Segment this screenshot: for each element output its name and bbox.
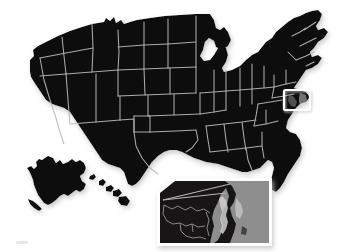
corner-artifact — [16, 241, 28, 244]
map-stage — [0, 0, 350, 252]
chesapeake-bay-detail-image — [158, 178, 272, 246]
chesapeake-bay-detail[interactable] — [0, 0, 350, 252]
us-map-figure: Map of the United States with Chesapeake… — [0, 0, 350, 252]
